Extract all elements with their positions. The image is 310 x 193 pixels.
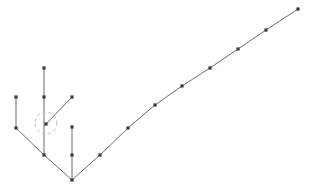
node-marker-arm-1 bbox=[42, 153, 45, 156]
node-marker-trunk-2 bbox=[126, 126, 129, 129]
node-marker-trunk-4 bbox=[180, 84, 183, 87]
node-marker-trunk-6 bbox=[236, 47, 239, 50]
node-marker-stem-center-mid bbox=[42, 95, 45, 98]
node-marker-trunk-1 bbox=[98, 153, 101, 156]
edge-main-trunk bbox=[72, 9, 298, 180]
node-marker-trunk-7 bbox=[264, 28, 267, 31]
node-marker-arm-tip bbox=[14, 95, 17, 98]
node-marker-stem-diagonal-tip bbox=[70, 95, 73, 98]
node-marker-stem-right-mid bbox=[70, 153, 73, 156]
node-marker-trunk-tip bbox=[296, 7, 299, 10]
node-marker-stem-right-tip bbox=[70, 125, 73, 128]
edge-branch-diagonal-upright bbox=[46, 97, 72, 124]
node-marker-trunk-5 bbox=[208, 66, 211, 69]
node-marker-arm-2 bbox=[14, 126, 17, 129]
node-marker-stem-center-tip bbox=[42, 66, 45, 69]
edges-layer bbox=[16, 9, 298, 180]
polyline-tree-diagram bbox=[0, 0, 310, 193]
node-marker-apex bbox=[70, 178, 73, 181]
node-marker-trunk-3 bbox=[153, 103, 156, 106]
nodes-layer bbox=[14, 7, 299, 181]
diagram-canvas bbox=[0, 0, 310, 193]
node-marker-stem-diagonal-base bbox=[44, 122, 47, 125]
